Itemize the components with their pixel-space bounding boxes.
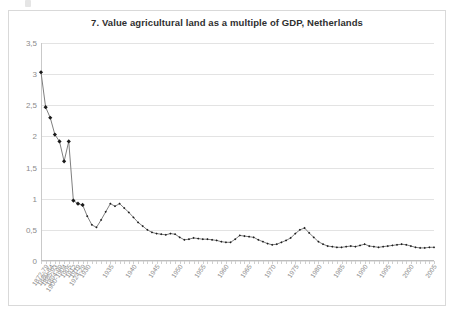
x-axis-tick-label: 1955 <box>193 263 207 279</box>
scan-artifact <box>25 0 31 7</box>
y-axis-tick-label: 2 <box>33 132 37 141</box>
y-axis-tick-label: 2,5 <box>26 101 37 110</box>
plot-area: 00,511,522,533,5 <box>41 43 434 261</box>
data-point-marker <box>391 244 393 246</box>
data-point-marker <box>197 237 199 239</box>
data-point-marker <box>396 244 398 246</box>
x-axis-tick-label: 1980 <box>309 263 323 279</box>
data-point-marker <box>419 247 421 249</box>
data-point-marker <box>350 245 352 247</box>
data-point-marker <box>48 116 52 120</box>
data-point-marker <box>410 245 412 247</box>
data-point-marker <box>81 203 85 207</box>
data-point-marker <box>405 244 407 246</box>
data-point-marker <box>359 244 361 246</box>
x-axis-tick-label: 1975 <box>285 263 299 279</box>
data-point-marker <box>192 237 194 239</box>
x-axis-tick-label: 1985 <box>332 263 346 279</box>
x-axis-tick-label: 1950 <box>170 263 184 279</box>
data-point-marker <box>400 243 402 245</box>
y-axis-tick-label: 1,5 <box>26 163 37 172</box>
data-point-marker <box>202 238 204 240</box>
x-axis-tick-label: 1960 <box>216 263 230 279</box>
data-point-marker <box>216 239 218 241</box>
chart-title: 7. Value agricultural land as a multiple… <box>9 17 445 28</box>
data-point-marker <box>336 246 338 248</box>
data-point-marker <box>340 246 342 248</box>
data-point-marker <box>165 234 167 236</box>
y-axis-tick-label: 3 <box>33 70 37 79</box>
x-axis-tick-label: 1945 <box>147 263 161 279</box>
data-point-marker <box>428 246 430 248</box>
y-axis-tick-label: 0 <box>33 257 37 266</box>
data-point-marker <box>225 241 227 243</box>
y-axis-tick-label: 3,5 <box>26 39 37 48</box>
data-point-marker <box>414 246 416 248</box>
data-series <box>41 43 434 261</box>
data-point-marker <box>44 105 48 109</box>
data-point-marker <box>387 245 389 247</box>
data-point-marker <box>345 246 347 248</box>
y-axis-tick-label: 1 <box>33 194 37 203</box>
data-point-marker <box>62 159 66 163</box>
data-point-marker <box>377 246 379 248</box>
data-point-marker <box>211 239 213 241</box>
x-axis-tick-label: 1990 <box>355 263 369 279</box>
data-point-marker <box>354 246 356 248</box>
x-axis-tick-label: 1935 <box>101 263 115 279</box>
data-point-marker <box>169 232 171 234</box>
data-point-marker <box>220 241 222 243</box>
data-point-marker <box>271 244 273 246</box>
data-point-marker <box>373 246 375 248</box>
chart-container: 7. Value agricultural land as a multiple… <box>8 10 446 306</box>
x-axis-tick-label: 2005 <box>424 263 438 279</box>
data-point-marker <box>160 233 162 235</box>
x-axis-tick-label: 2000 <box>401 263 415 279</box>
data-point-marker <box>424 247 426 249</box>
data-point-marker <box>206 238 208 240</box>
data-point-marker <box>382 246 384 248</box>
data-point-marker <box>67 139 71 143</box>
data-point-marker <box>248 236 250 238</box>
data-point-marker <box>155 232 157 234</box>
x-axis-labels: 1872-791880-841885-931894-991900-1904190… <box>41 263 434 313</box>
x-axis-tick-label: 1970 <box>262 263 276 279</box>
data-point-marker <box>433 246 435 248</box>
data-point-marker <box>39 70 43 74</box>
data-point-marker <box>331 246 333 248</box>
x-axis-tick-label: 1940 <box>124 263 138 279</box>
series-line <box>41 72 434 248</box>
x-axis-tick-label: 1995 <box>378 263 392 279</box>
y-axis-tick-label: 0,5 <box>26 225 37 234</box>
data-point-marker <box>243 235 245 237</box>
x-axis-tick-label: 1965 <box>239 263 253 279</box>
data-point-marker <box>188 238 190 240</box>
